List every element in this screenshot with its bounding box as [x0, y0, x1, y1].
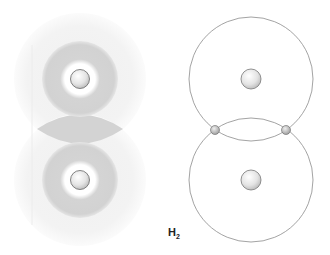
bohr-model	[189, 17, 313, 242]
molecule-symbol: H	[168, 226, 176, 238]
molecule-subscript: 2	[176, 233, 180, 240]
nucleus-icon	[241, 170, 261, 190]
nucleus-icon	[71, 171, 90, 190]
electron-icon	[211, 126, 220, 135]
h2-diagram	[0, 0, 330, 255]
electron-cloud-model	[14, 13, 146, 246]
molecule-label: H2	[168, 226, 180, 240]
electron-icon	[282, 126, 291, 135]
nucleus-icon	[71, 70, 90, 89]
nucleus-icon	[241, 69, 261, 89]
